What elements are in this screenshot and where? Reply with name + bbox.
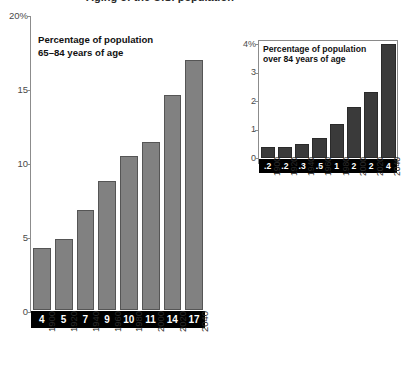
x-axis-year-label: 2020 [375, 140, 385, 176]
x-axis-year-label: 1920 [68, 292, 79, 332]
main-y-tick-label: 0 [0, 307, 28, 317]
bar [164, 95, 182, 310]
x-axis-year-label: 2020 [177, 292, 188, 332]
main-y-tick-label: 10 [0, 159, 28, 169]
bar [98, 181, 116, 310]
x-axis-year-label: 2040 [199, 292, 210, 332]
x-axis-year-label: 1980 [341, 140, 351, 176]
x-axis-year-label: 1980 [133, 292, 144, 332]
inset-y-tick-label: 4% [232, 40, 256, 49]
x-axis-year-label: 2040 [392, 140, 402, 176]
main-y-tick-mark [27, 238, 31, 239]
main-plot-area [31, 16, 205, 310]
inset-y-tick-mark [255, 101, 259, 102]
bar [185, 60, 203, 310]
x-axis-year-label: 1960 [323, 140, 333, 176]
main-y-tick-mark [27, 90, 31, 91]
main-y-tick-label: 5 [0, 233, 28, 243]
inset-y-tick-label: 2 [232, 97, 256, 106]
chart-population-over-84: Percentage of population over 84 years o… [232, 40, 399, 230]
main-y-tick-label: 15 [0, 85, 28, 95]
x-axis-year-label: 1900 [272, 140, 282, 176]
x-axis-year-label: 1960 [112, 292, 123, 332]
inset-y-tick-mark [255, 44, 259, 45]
chart-population-65-84: Percentage of population 65–84 years of … [0, 6, 215, 374]
inset-y-tick-mark [255, 158, 259, 159]
main-y-tick-mark [27, 164, 31, 165]
x-axis-year-label: 1940 [306, 140, 316, 176]
inset-y-tick-mark [255, 130, 259, 131]
inset-y-tick-label: 3 [232, 68, 256, 77]
inset-y-tick-label: 0 [232, 154, 256, 163]
main-y-tick-mark [27, 16, 31, 17]
inset-y-tick-label: 1 [232, 125, 256, 134]
main-y-tick-label: 20% [0, 11, 28, 21]
inset-chart-title: Percentage of population over 84 years o… [263, 44, 366, 65]
x-axis-year-label: 2000 [155, 292, 166, 332]
x-axis-year-label: 1920 [289, 140, 299, 176]
bar [142, 142, 160, 310]
x-axis-year-label: 1940 [90, 292, 101, 332]
x-axis-year-label: 1900 [46, 292, 57, 332]
main-y-tick-mark [27, 312, 31, 313]
page-title: Aging of the U.S. population [86, 0, 234, 3]
bar [120, 156, 138, 310]
inset-y-tick-mark [255, 73, 259, 74]
x-axis-year-label: 2000 [358, 140, 368, 176]
